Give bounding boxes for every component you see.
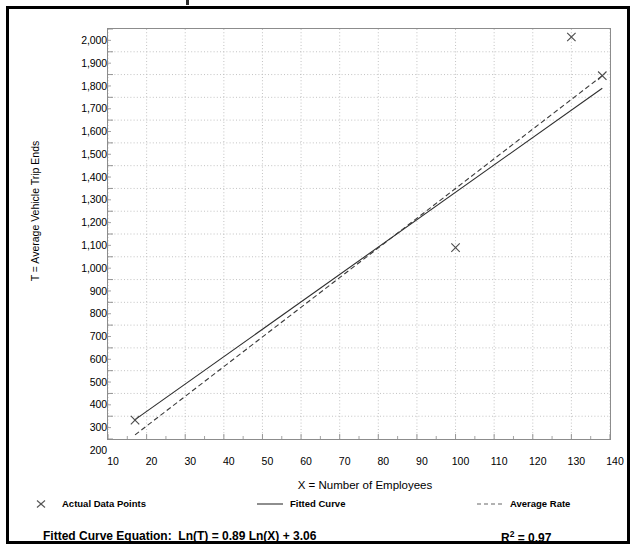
- chart-page: T = Average Vehicle Trip Ends 2,0001,900…: [0, 0, 638, 551]
- x-tick-label: 10: [107, 455, 119, 467]
- y-tick-label: 1,900: [81, 57, 107, 69]
- y-tick-label: 2,000: [81, 34, 107, 46]
- y-tick-label: 1,700: [81, 102, 107, 114]
- legend-item-actual-data-points: Actual Data Points: [29, 498, 146, 509]
- x-tick-label: 80: [377, 455, 389, 467]
- x-tick-label: 140: [606, 455, 624, 467]
- x-tick-label: 20: [146, 455, 158, 467]
- x-tick-label: 70: [339, 455, 351, 467]
- gridlines: [108, 29, 610, 439]
- r2-number: = 0.97: [514, 531, 551, 545]
- y-tick-label: 300: [90, 421, 107, 433]
- footer-row: Fitted Curve Equation: Ln(T) = 0.89 Ln(X…: [29, 529, 625, 549]
- y-tick-label: 1,400: [81, 171, 107, 183]
- y-tick-label: 900: [90, 285, 107, 297]
- r-squared-value: R2 = 0.97: [501, 529, 551, 545]
- x-tick-label: 130: [568, 455, 586, 467]
- solid-line-icon: [257, 499, 283, 509]
- legend-label: Fitted Curve: [290, 498, 345, 509]
- x-axis-title: X = Number of Employees: [113, 479, 617, 491]
- y-tick-label: 1,800: [81, 80, 107, 92]
- x-tick-label: 30: [184, 455, 196, 467]
- y-tick-label: 1,000: [81, 262, 107, 274]
- legend-label: Average Rate: [510, 498, 570, 509]
- data-point-markers: [131, 33, 607, 425]
- y-tick-label: 700: [90, 330, 107, 342]
- x-tick-label: 40: [223, 455, 235, 467]
- x-tick-label: 50: [262, 455, 274, 467]
- legend-label: Actual Data Points: [62, 498, 146, 509]
- y-tick-label: 400: [90, 398, 107, 410]
- y-tick-label: 1,100: [81, 239, 107, 251]
- x-tick-label: 90: [416, 455, 428, 467]
- chart-svg: [108, 29, 610, 439]
- y-axis-tick-labels: 2,0001,9001,8001,7001,6001,5001,4001,300…: [45, 34, 107, 446]
- y-axis-title: T = Average Vehicle Trip Ends: [29, 111, 41, 311]
- plot-area: [107, 28, 611, 440]
- axis-ticks: [108, 29, 610, 439]
- x-tick-label: 120: [529, 455, 547, 467]
- y-tick-label: 1,300: [81, 193, 107, 205]
- equation-value: Ln(T) = 0.89 Ln(X) + 3.06: [178, 529, 316, 543]
- y-tick-label: 1,500: [81, 148, 107, 160]
- page-edge-artifact: [186, 0, 189, 5]
- legend-item-fitted-curve: Fitted Curve: [257, 498, 345, 509]
- y-tick-label: 500: [90, 376, 107, 388]
- fitted-curve-equation: Fitted Curve Equation: Ln(T) = 0.89 Ln(X…: [43, 529, 316, 543]
- x-marker-icon: [29, 499, 55, 509]
- y-tick-label: 1,600: [81, 125, 107, 137]
- y-tick-label: 800: [90, 307, 107, 319]
- chart-frame: T = Average Vehicle Trip Ends 2,0001,900…: [6, 6, 630, 544]
- x-tick-label: 110: [491, 455, 508, 467]
- y-tick-label: 200: [90, 444, 107, 456]
- x-tick-label: 100: [452, 455, 470, 467]
- dashed-line-icon: [477, 499, 503, 509]
- x-tick-label: 60: [300, 455, 312, 467]
- chart-legend: Actual Data Points Fitted Curve Average …: [29, 498, 625, 516]
- series-lines: [135, 76, 602, 435]
- equation-label: Fitted Curve Equation:: [43, 529, 172, 543]
- y-tick-label: 1,200: [81, 216, 107, 228]
- r2-prefix: R: [501, 531, 510, 545]
- x-axis-tick-labels: 102030405060708090100110120130140: [113, 455, 617, 471]
- legend-item-average-rate: Average Rate: [477, 498, 570, 509]
- y-tick-label: 600: [90, 353, 107, 365]
